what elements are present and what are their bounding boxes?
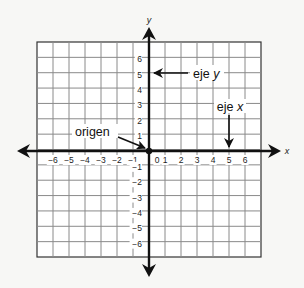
x-tick-label: 4 xyxy=(211,155,216,165)
y-tick-label: −6 xyxy=(132,239,142,249)
origin-point xyxy=(146,148,152,154)
y-axis-name: y xyxy=(146,15,152,25)
x-tick-label: 5 xyxy=(227,155,232,165)
x-tick-label: −6 xyxy=(48,155,58,165)
x-axis-callout-prefix: eje xyxy=(217,100,237,114)
y-tick-label: −5 xyxy=(132,223,142,233)
y-tick-label: 5 xyxy=(137,70,142,80)
x-tick-label: 6 xyxy=(243,155,248,165)
x-tick-label: 0 xyxy=(155,155,160,165)
coordinate-plane-svg: −6−5−4−3−2−10123456654321−1−2−3−4−5−6 y … xyxy=(0,0,304,288)
y-axis-callout-label: eje y xyxy=(193,67,220,81)
x-tick-label: 2 xyxy=(179,155,184,165)
x-axis-name: x xyxy=(284,146,290,156)
y-tick-label: 6 xyxy=(137,54,142,64)
y-tick-label: 2 xyxy=(137,116,142,126)
x-tick-label: 3 xyxy=(195,155,200,165)
x-axis-callout-label: eje x xyxy=(217,100,244,114)
y-axis-callout-prefix: eje xyxy=(193,67,213,81)
y-tick-label: 3 xyxy=(137,100,142,110)
origin-label: origen xyxy=(75,125,110,139)
x-tick-label: −4 xyxy=(80,155,90,165)
x-tick-label: −5 xyxy=(64,155,74,165)
coordinate-plane-diagram: −6−5−4−3−2−10123456654321−1−2−3−4−5−6 y … xyxy=(0,0,304,288)
x-tick-label: 1 xyxy=(163,155,168,165)
y-tick-label: −3 xyxy=(132,193,142,203)
y-axis-callout-var: y xyxy=(212,67,220,81)
y-tick-label: −2 xyxy=(132,177,142,187)
y-tick-label: −4 xyxy=(132,208,142,218)
y-tick-label: −1 xyxy=(132,162,142,172)
x-tick-label: −2 xyxy=(112,155,122,165)
x-tick-label: −3 xyxy=(96,155,106,165)
y-tick-label: 4 xyxy=(137,85,142,95)
y-tick-label: 1 xyxy=(137,131,142,141)
x-axis-callout-var: x xyxy=(236,100,244,114)
